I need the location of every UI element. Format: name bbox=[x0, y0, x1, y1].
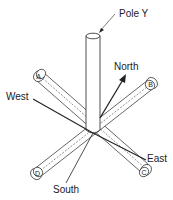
rod-label-b: B bbox=[148, 81, 153, 88]
east-label: East bbox=[147, 154, 167, 164]
north-label: North bbox=[114, 62, 138, 72]
south-label: South bbox=[53, 185, 79, 195]
rod-label-c: C bbox=[141, 169, 146, 176]
pole-leader-line bbox=[100, 14, 115, 31]
east-line bbox=[93, 133, 146, 160]
pole-leader-arrowhead bbox=[99, 28, 104, 33]
west-label: West bbox=[6, 92, 29, 102]
rod-label-a: A bbox=[36, 73, 41, 80]
pole-label: Pole Y bbox=[119, 9, 148, 19]
pole-y bbox=[86, 33, 100, 133]
rod-label-d: D bbox=[35, 170, 40, 177]
north-arrowhead bbox=[119, 74, 126, 83]
